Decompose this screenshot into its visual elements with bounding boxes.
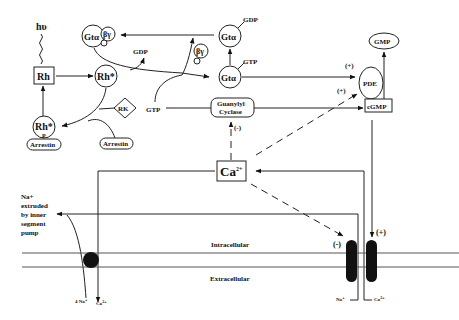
rk-connector [99,108,115,109]
gc-label-2: Cyclase [219,108,242,116]
na-extruded-1: Na+ [21,193,34,201]
extracellular-label: Extracellular [210,275,250,283]
ca-out-label: Ca2+ [96,299,107,306]
arrow-gtp-in [155,75,182,102]
arrow-channel-ca-to-box [256,171,364,300]
na-in-label: Na+ [336,295,345,302]
bg-free-label: βγ [196,47,204,56]
minus-exchanger: (-) [333,240,341,249]
na-extruded-2: extruded [21,202,48,210]
arrestin-connector [88,120,115,138]
na-extruded-5: pump [21,229,39,237]
ca-in-label: Ca2+ [374,295,385,302]
arrow-ca-to-exchanger [98,171,215,302]
bg-small-node [101,40,107,46]
bg-free-small-node [194,58,200,64]
rh-label: Rh [37,71,50,82]
arrestin-free-label: Arrestin [103,140,128,148]
cgmp-label: cGMP [367,103,387,111]
channel-right [366,240,377,282]
rk-label: RK [118,105,129,113]
arrow-bg-release [182,38,193,75]
phototransduction-diagram: hυ Rh Rh* RK Arrestin Rh* P Arrestin Gtα… [0,0,459,320]
exchanger-na-in [67,215,86,298]
pde-label: PDE [363,80,377,88]
gta-bg-label: Gtα [84,32,99,42]
rhstarp-label: Rh* [35,121,53,132]
minus-gc: (-) [234,124,242,132]
phospho-label: P [42,133,46,139]
na-extruded-3: by inner [21,211,46,219]
gc-label-1: Guanylyl [217,100,245,108]
arrestin-bound-label: Arrestin [30,141,55,149]
arrow-ca-to-channel-minus [251,184,343,236]
intracellular-label: Intracellular [211,241,249,249]
light-label: hυ [36,21,47,32]
gdp-tag-label: GDP [243,16,259,24]
light-wave [40,34,43,64]
bg-label: βγ [103,30,111,39]
gtp-tag-label: GTP [243,58,258,66]
arrow-ca-to-pde [256,94,357,155]
gta-gdp-label: Gtα [221,32,236,42]
arrow-na-to-extruded [57,214,358,300]
gta-gtp-label: Gtα [221,73,236,83]
gtp-in-label: GTP [146,106,161,114]
na-extruded-4: segment [21,220,46,228]
channel-left [346,240,357,282]
plus-channel: (+) [376,228,386,237]
plus-pde-gt: (+) [345,62,354,70]
gmp-label: GMP [374,38,391,46]
gdp-released-label: GDP [133,48,149,56]
rhstar-label: Rh* [97,71,115,82]
four-na-label: 4 Na+ [75,297,88,304]
exchanger-node [83,252,99,268]
plus-pde-ca: (+) [337,87,346,95]
